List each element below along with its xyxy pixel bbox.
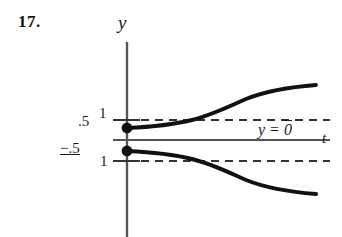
- initial-point-lower-dot: [122, 146, 133, 157]
- solution-curve-plot: [0, 0, 342, 237]
- tick-label-one-positive: 1: [99, 105, 107, 122]
- t-axis-label: t: [322, 130, 326, 147]
- equilibrium-label-lhs: y =: [258, 121, 284, 138]
- tick-label-one-negative: 1: [100, 153, 108, 170]
- tick-label-half-negative: −.5: [60, 140, 80, 157]
- tick-label-half-positive: .5: [78, 113, 89, 130]
- y-axis-label: y: [118, 12, 126, 34]
- initial-point-upper-dot: [122, 123, 133, 134]
- equilibrium-line-label: y = 0: [258, 121, 292, 139]
- equilibrium-label-value: 0: [284, 121, 292, 138]
- figure-container: 17. y t y = 0 .5 −.5 1 1: [0, 0, 342, 237]
- lower-solution-curve: [127, 151, 316, 194]
